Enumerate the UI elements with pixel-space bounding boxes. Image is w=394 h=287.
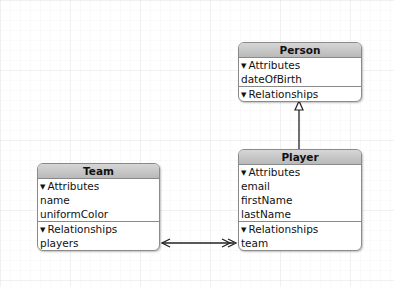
relationship-row[interactable]: team — [239, 236, 361, 250]
attribute-row[interactable]: email — [239, 179, 361, 193]
section-label: Attributes — [248, 59, 300, 71]
relationships-section-toggle[interactable]: ▼Relationships — [239, 86, 361, 101]
entity-title: Team — [38, 164, 159, 179]
disclosure-triangle-icon: ▼ — [241, 62, 246, 70]
disclosure-triangle-icon: ▼ — [241, 91, 246, 99]
attribute-row[interactable]: name — [38, 193, 159, 207]
attributes-section-toggle[interactable]: ▼Attributes — [239, 58, 361, 72]
disclosure-triangle-icon: ▼ — [40, 226, 45, 234]
relationships-section-toggle[interactable]: ▼Relationships — [38, 221, 159, 236]
entity-title: Player — [239, 150, 361, 165]
attribute-row[interactable]: firstName — [239, 193, 361, 207]
section-label: Attributes — [47, 180, 99, 192]
section-label: Relationships — [248, 223, 318, 235]
disclosure-triangle-icon: ▼ — [241, 226, 246, 234]
entity-title: Person — [239, 43, 361, 58]
attributes-section-toggle[interactable]: ▼Attributes — [38, 179, 159, 193]
relationships-section-toggle[interactable]: ▼Relationships — [239, 221, 361, 236]
disclosure-triangle-icon: ▼ — [40, 183, 45, 191]
disclosure-triangle-icon: ▼ — [241, 169, 246, 177]
attribute-row[interactable]: dateOfBirth — [239, 72, 361, 86]
entity-team[interactable]: Team ▼Attributes name uniformColor ▼Rela… — [37, 163, 160, 251]
section-label: Relationships — [248, 88, 318, 100]
section-label: Relationships — [47, 223, 117, 235]
section-label: Attributes — [248, 166, 300, 178]
entity-player[interactable]: Player ▼Attributes email firstName lastN… — [238, 149, 362, 251]
attributes-section-toggle[interactable]: ▼Attributes — [239, 165, 361, 179]
entity-person[interactable]: Person ▼Attributes dateOfBirth ▼Relation… — [238, 42, 362, 102]
attribute-row[interactable]: lastName — [239, 207, 361, 221]
relationship-row[interactable]: players — [38, 236, 159, 250]
attribute-row[interactable]: uniformColor — [38, 207, 159, 221]
inheritance-arrowhead-icon — [295, 101, 303, 110]
